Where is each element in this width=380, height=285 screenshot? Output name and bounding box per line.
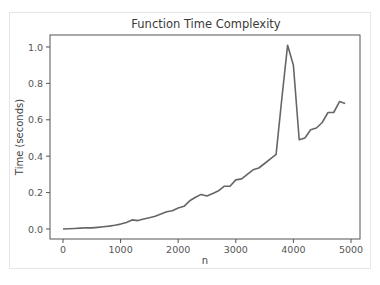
y-tick-label: 0.2 — [28, 187, 43, 198]
x-tick-label: 4000 — [281, 244, 305, 255]
x-tick-label: 5000 — [339, 244, 363, 255]
x-axis: 010002000300040005000 — [60, 239, 363, 255]
y-axis: 0.00.20.40.60.81.0 — [28, 42, 50, 235]
plot-area — [50, 35, 360, 239]
y-tick-label: 1.0 — [28, 42, 43, 53]
x-tick-label: 1000 — [109, 244, 133, 255]
y-tick-label: 0.6 — [28, 114, 43, 125]
x-axis-label: n — [202, 255, 208, 266]
line-chart: Function Time Complexity 0.00.20.40.60.8… — [0, 0, 380, 285]
y-tick-label: 0.8 — [28, 78, 43, 89]
x-tick-label: 2000 — [166, 244, 190, 255]
y-tick-label: 0.4 — [28, 151, 43, 162]
y-axis-label: Time (seconds) — [14, 99, 25, 176]
y-tick-label: 0.0 — [28, 224, 43, 235]
x-tick-label: 0 — [60, 244, 66, 255]
chart-title: Function Time Complexity — [131, 17, 281, 31]
data-line — [63, 45, 345, 229]
x-tick-label: 3000 — [224, 244, 248, 255]
